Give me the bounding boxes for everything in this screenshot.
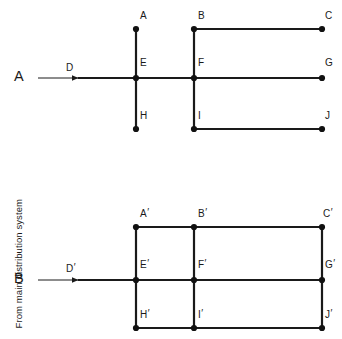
prime-mark: ′ <box>147 258 149 269</box>
node-label-Iprime: I′ <box>198 309 203 320</box>
node-label-Jprime: J′ <box>325 309 332 320</box>
node-label-Gprime: G′ <box>325 259 335 270</box>
source-label-A: A <box>14 68 24 84</box>
network-node <box>191 277 197 283</box>
node-label-B: B <box>198 10 205 21</box>
network-node <box>319 325 325 331</box>
node-label-I: I <box>198 110 201 121</box>
node-label-F: F <box>198 57 204 68</box>
network-node <box>191 126 197 132</box>
prime-mark: ′ <box>331 207 333 218</box>
node-label-Bprime: B′ <box>198 208 207 219</box>
feeder-label: D′ <box>66 263 75 274</box>
network-node <box>191 26 197 32</box>
network-node <box>133 75 139 81</box>
network-node <box>191 325 197 331</box>
network-node <box>319 75 325 81</box>
network-node <box>133 325 139 331</box>
prime-mark: ′ <box>201 308 203 319</box>
node-label-Cprime: C′ <box>323 208 332 219</box>
prime-mark: ′ <box>74 262 76 273</box>
network-diagram-canvas <box>0 0 342 339</box>
feeder-label: D <box>66 62 73 73</box>
node-label-E: E <box>140 57 147 68</box>
node-label-Hprime: H′ <box>140 309 149 320</box>
node-label-G: G <box>325 57 333 68</box>
network-node <box>319 126 325 132</box>
network-node <box>133 26 139 32</box>
node-label-Aprime: A′ <box>140 208 149 219</box>
mesh-distribution-system <box>38 224 325 331</box>
node-label-C: C <box>325 10 332 21</box>
prime-mark: ′ <box>205 207 207 218</box>
prime-mark: ′ <box>148 308 150 319</box>
node-label-A: A <box>140 10 147 21</box>
network-node <box>191 224 197 230</box>
network-node <box>319 26 325 32</box>
network-node <box>133 126 139 132</box>
node-label-H: H <box>140 110 147 121</box>
network-node <box>319 224 325 230</box>
network-node <box>191 75 197 81</box>
prime-mark: ′ <box>147 207 149 218</box>
radial-distribution-system <box>38 26 325 132</box>
node-label-J: J <box>325 110 330 121</box>
source-label-B: B <box>14 270 24 286</box>
network-node <box>133 224 139 230</box>
node-label-Eprime: E′ <box>140 259 149 270</box>
node-label-Fprime: F′ <box>198 259 206 270</box>
prime-mark: ′ <box>333 258 335 269</box>
network-node <box>133 277 139 283</box>
network-node <box>319 277 325 283</box>
